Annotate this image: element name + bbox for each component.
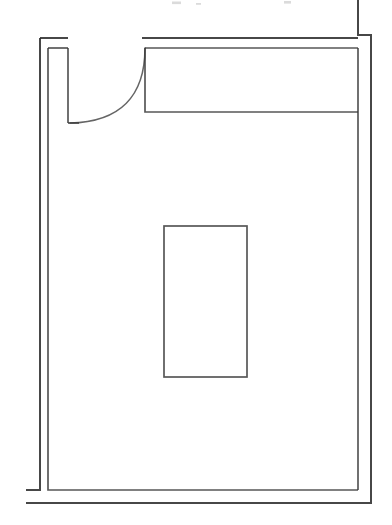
floor-plan-drawing	[0, 0, 392, 525]
door-swing-arc	[70, 48, 145, 123]
door-group	[68, 48, 145, 123]
floor-plan-canvas: Scanned black-and-white architectural fl…	[0, 0, 392, 525]
inner-wall-left-and-bottom	[48, 48, 358, 490]
center-fixture-outline	[164, 226, 247, 377]
scan-speck	[196, 3, 201, 5]
center-fixture-group	[164, 226, 247, 377]
inner-wall-group	[48, 48, 358, 490]
closet-group	[145, 48, 358, 112]
outer-wall-group	[26, 0, 371, 503]
outer-wall-right	[26, 0, 371, 503]
scan-artifacts	[172, 1, 291, 5]
scan-speck	[172, 2, 181, 5]
scan-speck	[284, 1, 291, 4]
closet-outline	[145, 48, 358, 112]
outer-wall-left	[26, 38, 40, 490]
